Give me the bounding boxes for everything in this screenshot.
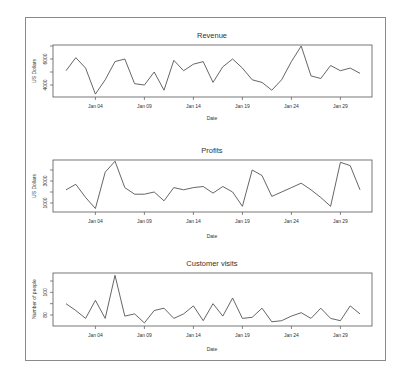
series-line [66, 275, 360, 323]
customer-visits-panel: Customer visits Number of people Date 10… [31, 259, 372, 352]
y-tick-label: 80 [42, 312, 48, 318]
plot-box [53, 45, 372, 97]
x-tick-label: Jan 29 [333, 332, 348, 338]
revenue-x-label: Date [207, 115, 218, 121]
x-tick-label: Jan 24 [284, 332, 299, 338]
x-tick-label: Jan 19 [235, 332, 250, 338]
x-tick-label: Jan 04 [88, 103, 103, 109]
y-tick-label: 4000 [42, 79, 48, 90]
customer-visits-title: Customer visits [186, 259, 238, 268]
x-tick-label: Jan 24 [284, 103, 299, 109]
series-line [66, 46, 360, 94]
x-tick-label: Jan 04 [88, 218, 103, 224]
x-tick-label: Jan 29 [333, 103, 348, 109]
customer-visits-x-label: Date [207, 346, 218, 352]
revenue-y-label: US Dollars [31, 59, 37, 83]
y-tick-label: 100 [42, 288, 48, 297]
x-tick-label: Jan 09 [137, 103, 152, 109]
chart-area: Revenue US Dollars Date 60004000Jan 04Ja… [0, 0, 406, 377]
x-tick-label: Jan 19 [235, 218, 250, 224]
profits-title: Profits [201, 146, 223, 155]
y-tick-label: 3000 [42, 175, 48, 186]
x-tick-label: Jan 29 [333, 218, 348, 224]
profits-panel: Profits US Dollars Date 30001000Jan 04Ja… [31, 146, 372, 239]
plot-box [53, 273, 372, 326]
x-tick-label: Jan 14 [186, 103, 201, 109]
x-tick-label: Jan 24 [284, 218, 299, 224]
revenue-panel: Revenue US Dollars Date 60004000Jan 04Ja… [31, 31, 372, 121]
series-line [66, 161, 360, 208]
x-tick-label: Jan 14 [186, 332, 201, 338]
plot-box [53, 160, 372, 212]
profits-y-label: US Dollars [31, 174, 37, 198]
revenue-title: Revenue [197, 31, 227, 40]
x-tick-label: Jan 04 [88, 332, 103, 338]
x-tick-label: Jan 09 [137, 332, 152, 338]
x-tick-label: Jan 09 [137, 218, 152, 224]
customer-visits-y-label: Number of people [31, 279, 37, 319]
y-tick-label: 6000 [42, 53, 48, 64]
x-tick-label: Jan 14 [186, 218, 201, 224]
profits-x-label: Date [207, 233, 218, 239]
y-tick-label: 1000 [42, 197, 48, 208]
x-tick-label: Jan 19 [235, 103, 250, 109]
